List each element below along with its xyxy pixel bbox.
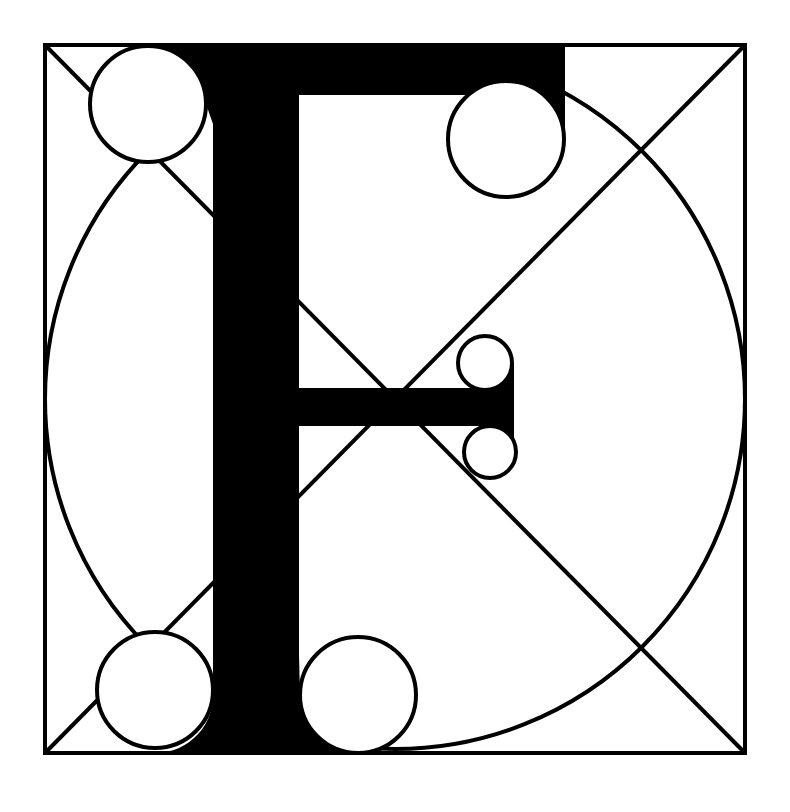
serif-circle-top-left — [90, 46, 206, 162]
letter-middle-bar — [299, 388, 514, 426]
serif-circle-bottom-left — [97, 632, 213, 748]
construction-lines — [45, 45, 745, 753]
letter-f-construction-diagram — [0, 0, 790, 812]
serif-circle-bottom-right — [300, 637, 416, 753]
letter-stem — [213, 45, 299, 753]
serif-circle-top-right — [448, 81, 564, 197]
serif-circle-bar-upper — [458, 336, 512, 390]
serif-circle-bar-lower — [464, 426, 516, 478]
